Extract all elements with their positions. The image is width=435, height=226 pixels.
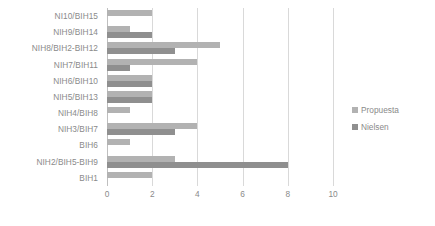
bar-group: [107, 24, 333, 40]
bar-group: [107, 73, 333, 89]
legend-swatch-icon: [352, 107, 358, 113]
y-axis-label: NIH5/BIH13: [0, 89, 103, 105]
y-axis-label: BIH6: [0, 137, 103, 153]
y-axis-label: NIH6/BIH10: [0, 73, 103, 89]
x-axis-tick: 8: [285, 189, 290, 199]
bar-rows: [107, 8, 333, 186]
bar-group: [107, 89, 333, 105]
bar-nielsen: [107, 48, 175, 54]
bar-group: [107, 154, 333, 170]
y-axis-label: BIH1: [0, 170, 103, 186]
bar-propuesta: [107, 172, 152, 178]
bar-group: [107, 121, 333, 137]
y-axis-label: NIH9/BIH14: [0, 24, 103, 40]
y-axis-label: NIH3/BIH7: [0, 121, 103, 137]
bar-nielsen: [107, 162, 288, 168]
x-axis-tick: 0: [105, 189, 110, 199]
bar-propuesta: [107, 107, 130, 113]
x-axis-tick: 6: [240, 189, 245, 199]
legend-item-nielsen[interactable]: Nielsen: [352, 122, 399, 132]
bar-propuesta: [107, 139, 130, 145]
y-axis-label: NI10/BIH15: [0, 8, 103, 24]
legend-label: Propuesta: [361, 105, 399, 115]
bar-nielsen: [107, 129, 175, 135]
y-axis-label: NIH2/BIH5-BIH9: [0, 154, 103, 170]
x-axis-tick: 4: [195, 189, 200, 199]
bar-group: [107, 8, 333, 24]
bar-propuesta: [107, 10, 152, 16]
legend-item-propuesta[interactable]: Propuesta: [352, 105, 399, 115]
bar-nielsen: [107, 81, 152, 87]
x-axis-tick-labels: 0246810: [107, 189, 333, 205]
y-axis-label: NIH4/BIH8: [0, 105, 103, 121]
bar-nielsen: [107, 32, 152, 38]
plot-area: [107, 8, 333, 186]
bar-group: [107, 40, 333, 56]
bar-group: [107, 170, 333, 186]
bar-group: [107, 105, 333, 121]
x-axis-tick: 2: [150, 189, 155, 199]
legend-swatch-icon: [352, 124, 358, 130]
bar-group: [107, 57, 333, 73]
x-axis-tick: 10: [328, 189, 337, 199]
chart-legend: Propuesta Nielsen: [352, 105, 399, 132]
bar-chart: NI10/BIH15 NIH9/BIH14 NIH8/BIH2-BIH12 NI…: [0, 0, 435, 226]
bar-nielsen: [107, 65, 130, 71]
bar-group: [107, 137, 333, 153]
bar-nielsen: [107, 97, 152, 103]
y-axis-label: NIH8/BIH2-BIH12: [0, 40, 103, 56]
y-axis-category-labels: NI10/BIH15 NIH9/BIH14 NIH8/BIH2-BIH12 NI…: [0, 8, 103, 186]
gridline: [333, 8, 334, 186]
y-axis-label: NIH7/BIH11: [0, 57, 103, 73]
legend-label: Nielsen: [361, 122, 389, 132]
